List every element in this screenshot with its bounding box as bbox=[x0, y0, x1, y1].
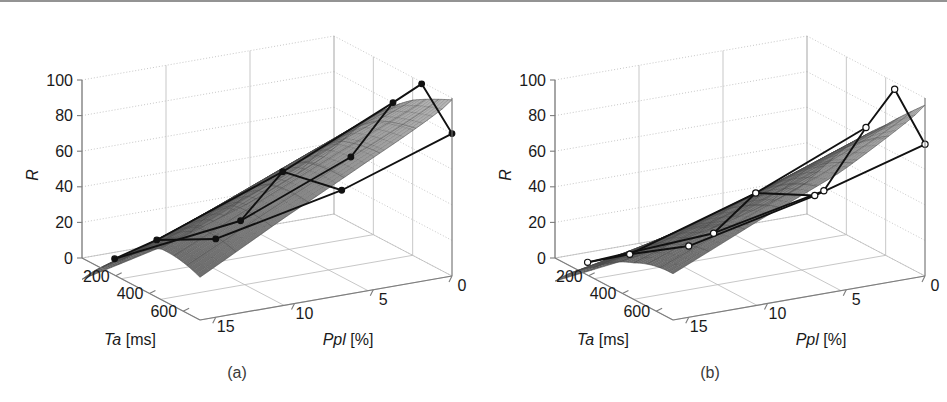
x-tick-mark bbox=[589, 273, 595, 276]
data-point-marker bbox=[863, 124, 869, 130]
x-axis-title: Ta [ms] bbox=[104, 331, 156, 348]
data-point-marker bbox=[238, 218, 244, 224]
data-point-marker bbox=[753, 190, 759, 196]
data-point-marker bbox=[812, 192, 818, 198]
x-tick-label: 600 bbox=[623, 303, 650, 320]
data-point-marker bbox=[154, 237, 160, 243]
wall-gridline bbox=[334, 36, 452, 98]
wall-gridline bbox=[334, 178, 452, 240]
z-tick-label: 40 bbox=[55, 178, 73, 195]
data-point-marker bbox=[892, 86, 898, 92]
y-tick-label: 10 bbox=[769, 305, 787, 322]
wall-gridline bbox=[555, 107, 807, 151]
y-tick-label: 0 bbox=[931, 277, 940, 294]
wall-gridline bbox=[555, 36, 807, 80]
wall-gridline bbox=[82, 36, 334, 80]
surface-wireframe bbox=[555, 105, 925, 281]
axis-titles: Ta [ms]Ppl [%](a) bbox=[104, 331, 373, 381]
x-tick-label: 600 bbox=[150, 303, 177, 320]
panel-caption: (b) bbox=[700, 364, 720, 381]
data-point-marker bbox=[585, 259, 591, 265]
x-tick-label: 400 bbox=[590, 285, 617, 302]
y-axis-line bbox=[673, 276, 925, 320]
data-point-marker bbox=[711, 230, 717, 236]
x-axis-title: Ta [ms] bbox=[577, 331, 629, 348]
y-tick-label: 0 bbox=[458, 277, 467, 294]
z-tick-label: 80 bbox=[55, 107, 73, 124]
data-point-marker bbox=[112, 256, 118, 262]
y-axis-line bbox=[200, 276, 452, 320]
wall-gridline bbox=[807, 36, 925, 98]
y-axis-title: Ppl [%] bbox=[796, 331, 847, 348]
z-tick-label: 0 bbox=[537, 250, 546, 267]
tick-labels: 020406080100R200400600051015 bbox=[497, 72, 940, 336]
axes-background bbox=[555, 36, 925, 320]
x-tick-mark bbox=[149, 290, 155, 293]
z-tick-label: 60 bbox=[55, 143, 73, 160]
z-axis-title: R bbox=[24, 169, 41, 181]
wall-gridline bbox=[82, 107, 334, 151]
axis-titles: Ta [ms]Ppl [%](b) bbox=[577, 331, 846, 381]
surface-plot-a: 020406080100R200400600051015Ta [ms]Ppl [… bbox=[0, 0, 474, 402]
z-tick-label: 80 bbox=[528, 107, 546, 124]
surface-mesh bbox=[555, 105, 925, 281]
z-tick-label: 40 bbox=[528, 178, 546, 195]
z-tick-label: 100 bbox=[519, 72, 546, 89]
data-point-marker bbox=[821, 188, 827, 194]
data-point-marker bbox=[339, 187, 345, 193]
x-tick-mark bbox=[116, 273, 122, 276]
wall-gridline bbox=[555, 72, 807, 116]
mesh-line-ta bbox=[594, 147, 846, 267]
x-tick-label: 200 bbox=[556, 268, 583, 285]
figure-container: 020406080100R200400600051015Ta [ms]Ppl [… bbox=[0, 0, 947, 402]
data-point-marker bbox=[419, 81, 425, 87]
panel-caption: (a) bbox=[227, 364, 247, 381]
data-point-marker bbox=[390, 100, 396, 106]
x-tick-mark bbox=[622, 290, 628, 293]
z-tick-label: 60 bbox=[528, 143, 546, 160]
y-tick-label: 5 bbox=[379, 291, 388, 308]
z-tick-label: 20 bbox=[55, 214, 73, 231]
data-cross-line bbox=[630, 128, 866, 255]
plot-panel-a: 020406080100R200400600051015Ta [ms]Ppl [… bbox=[0, 0, 474, 402]
y-tick-label: 15 bbox=[217, 318, 235, 335]
y-axis-title: Ppl [%] bbox=[323, 331, 374, 348]
data-point-marker bbox=[686, 243, 692, 249]
data-overlay bbox=[585, 86, 929, 265]
y-tick-label: 5 bbox=[852, 291, 861, 308]
z-tick-label: 0 bbox=[64, 250, 73, 267]
plot-panel-b: 020406080100R200400600051015Ta [ms]Ppl [… bbox=[473, 0, 947, 402]
floor-gridline bbox=[250, 229, 368, 291]
wall-gridline bbox=[82, 72, 334, 116]
data-point-marker bbox=[627, 251, 633, 257]
x-tick-label: 400 bbox=[117, 285, 144, 302]
x-tick-mark bbox=[656, 308, 662, 311]
y-tick-label: 10 bbox=[296, 305, 314, 322]
surface-plot-b: 020406080100R200400600051015Ta [ms]Ppl [… bbox=[473, 0, 947, 402]
data-point-marker bbox=[348, 154, 354, 160]
data-point-marker bbox=[213, 236, 219, 242]
data-point-marker bbox=[280, 169, 286, 175]
x-tick-label: 200 bbox=[83, 268, 110, 285]
z-tick-label: 100 bbox=[46, 72, 73, 89]
z-axis-title: R bbox=[497, 169, 514, 181]
wall-gridline bbox=[555, 143, 807, 187]
z-tick-label: 20 bbox=[528, 214, 546, 231]
y-tick-label: 15 bbox=[690, 318, 708, 335]
x-tick-mark bbox=[183, 308, 189, 311]
floor-gridline bbox=[723, 229, 841, 291]
